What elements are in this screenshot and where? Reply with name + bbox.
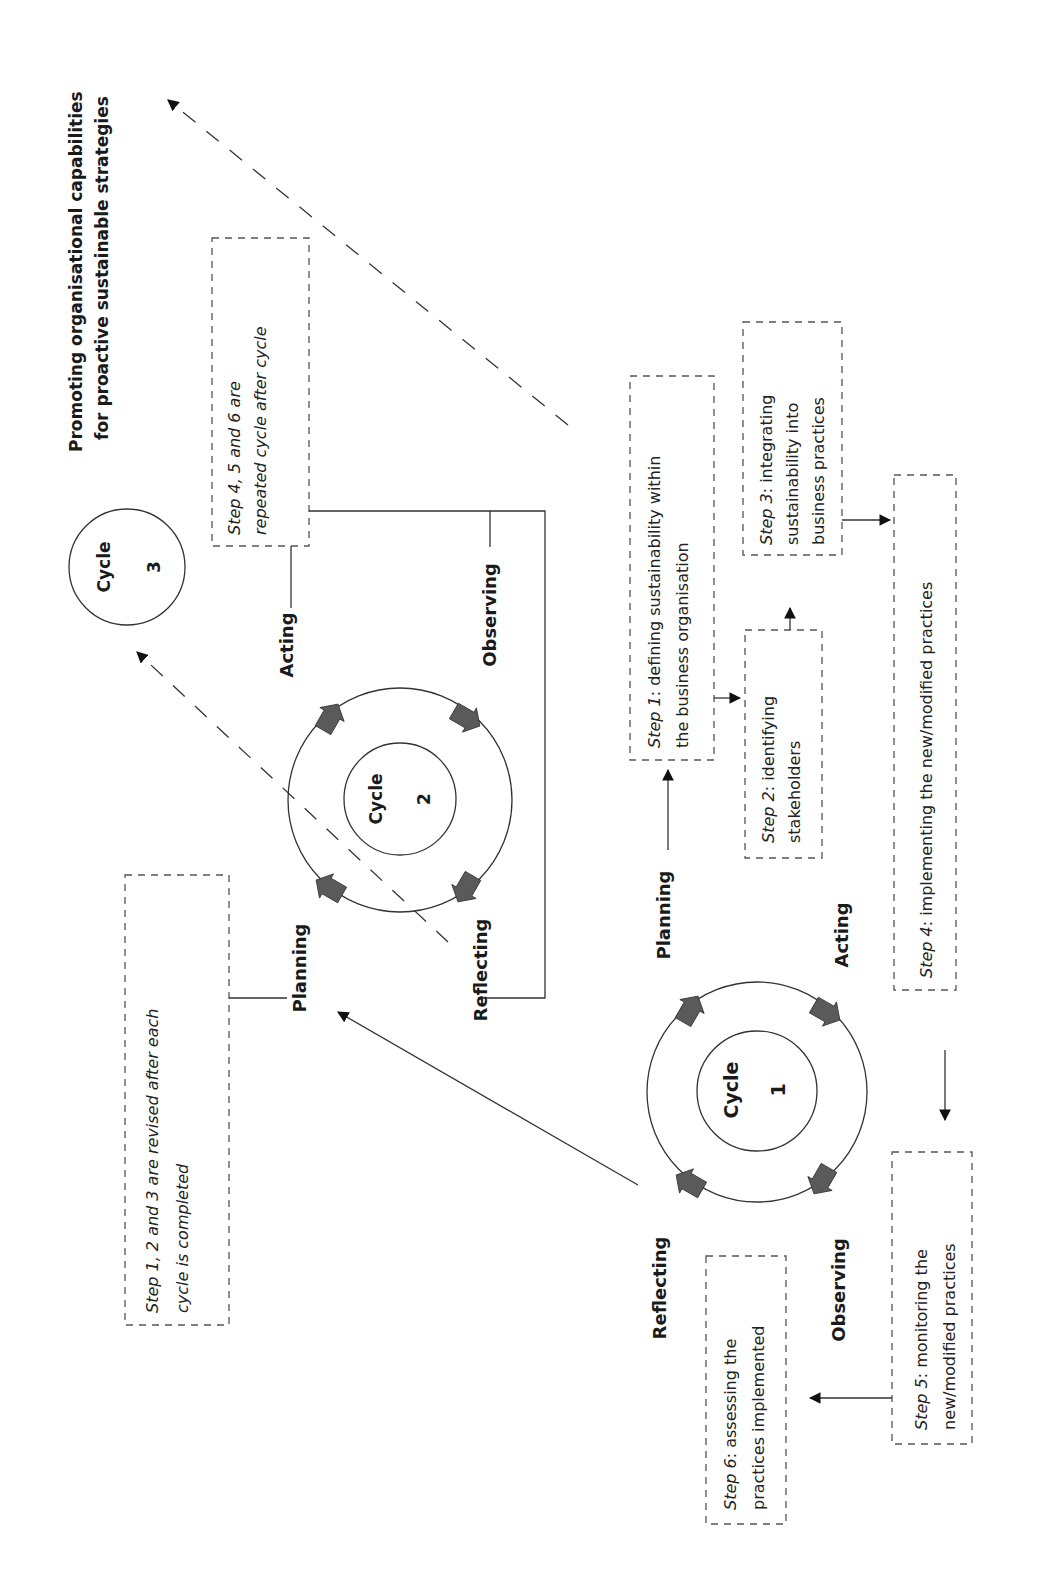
cycle-3-number: 3 (144, 561, 164, 573)
step-5-line-2: new/modified practices (940, 1243, 959, 1430)
note-revision-line-1: Step 1, 2 and 3 are revised after each (143, 1009, 162, 1313)
connector-note-bracket (309, 511, 545, 998)
step-3-line-3: business practices (809, 397, 828, 545)
goal-line-1: Promoting organisational capabilities (66, 91, 86, 452)
arrow-reflecting-to-planning (338, 1012, 638, 1185)
step-5: Step 5: monitoring the new/modified prac… (892, 1152, 972, 1444)
step-3: Step 3: integrating sustainability into … (743, 322, 842, 555)
step-5-box (892, 1152, 972, 1444)
cycle-1-phase-observing: Observing (828, 1238, 849, 1342)
cycle-3-label: Cycle (94, 542, 114, 593)
cycle-1-label: Cycle (720, 1062, 742, 1119)
step-2-line-1: Step 2: identifying (759, 696, 778, 843)
step-6-line-1: Step 6: assessing the (721, 1339, 740, 1510)
note-repetition-line-2: repeated cycle after cycle (251, 326, 270, 535)
step-2-box (745, 630, 822, 858)
step-3-line-1: Step 3: integrating (757, 395, 776, 545)
cycle-1-phase-reflecting: Reflecting (649, 1237, 670, 1340)
cycle-2-number: 2 (414, 793, 434, 805)
step-5-line-1: Step 5: monitoring the (912, 1249, 931, 1430)
cycle-2-phase-reflecting: Reflecting (470, 919, 491, 1022)
step-3-line-2: sustainability into (783, 403, 802, 545)
cycle-1-arrow-acting-icon (807, 993, 847, 1032)
step-2: Step 2: identifying stakeholders (745, 630, 822, 858)
cycle-1-arrow-reflecting-icon (669, 1163, 709, 1202)
cycle-1: Cycle 1 Planning Acting Reflecting Obser… (647, 870, 867, 1341)
cycle-1-inner-circle (697, 1031, 817, 1151)
cycle-1-arrow-observing-icon (802, 1161, 841, 1201)
note-revision: Step 1, 2 and 3 are revised after each c… (125, 875, 229, 1325)
cycle-1-phase-planning: Planning (653, 870, 674, 959)
cycle-2-arrow-observing-icon (447, 699, 487, 738)
step-4: Step 4: implementing the new/modified pr… (894, 475, 956, 990)
step-4-line-1: Step 4: implementing the new/modified pr… (917, 582, 936, 978)
step-6-box (706, 1256, 786, 1524)
step-1-line-2: the business organisation (673, 542, 692, 748)
cycle-1-phase-acting: Acting (831, 902, 852, 967)
cycle-2: Cycle 2 Acting Observing Planning Reflec… (276, 563, 512, 1021)
note-repetition: Step 4, 5 and 6 are repeated cycle after… (212, 238, 309, 546)
note-revision-line-2: cycle is completed (173, 1163, 192, 1313)
cycle-1-number: 1 (767, 1083, 789, 1096)
goal-statement: Promoting organisational capabilities fo… (66, 91, 112, 452)
step-1: Step 1: defining sustainability within t… (630, 376, 714, 760)
step-6: Step 6: assessing the practices implemen… (706, 1256, 786, 1524)
step-6-line-2: practices implemented (749, 1326, 768, 1510)
dashed-arrow-to-cycle-3 (137, 652, 448, 942)
cycle-2-label: Cycle (366, 774, 386, 825)
cycle-3-circle (69, 509, 185, 625)
cycle-2-phase-acting: Acting (276, 612, 297, 677)
cycle-2-phase-planning: Planning (289, 923, 310, 1012)
action-research-diagram: Promoting organisational capabilities fo… (0, 0, 1050, 1584)
note-repetition-line-1: Step 4, 5 and 6 are (225, 381, 244, 535)
dashed-arrow-to-goal (168, 100, 568, 425)
cycle-2-arrow-reflecting-icon (446, 869, 485, 909)
step-2-line-2: stakeholders (785, 741, 804, 843)
cycle-2-inner-circle (344, 743, 456, 855)
cycle-2-phase-observing: Observing (479, 563, 500, 667)
step-1-line-1: Step 1: defining sustainability within (645, 456, 664, 748)
step-1-box (630, 376, 714, 760)
cycle-3: Cycle 3 (69, 509, 185, 625)
goal-line-2: for proactive sustainable strategies (92, 96, 112, 440)
